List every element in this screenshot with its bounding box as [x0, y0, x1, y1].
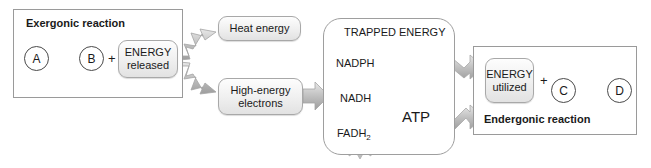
- molecule-b-label: B: [87, 52, 95, 66]
- endergonic-reaction-title: Endergonic reaction: [484, 113, 590, 125]
- trapped-energy-title: TRAPPED ENERGY: [344, 26, 445, 38]
- heat-energy-box: Heat energy: [218, 16, 301, 41]
- energy-released-line1: ENERGY: [125, 46, 171, 59]
- exergonic-plus-sign: +: [108, 51, 116, 66]
- endergonic-plus-sign: +: [540, 73, 548, 88]
- trapped-energy-panel: [323, 18, 455, 155]
- molecule-a-circle: A: [24, 46, 49, 71]
- energy-utilized-box: ENERGY utilized: [485, 58, 534, 103]
- high-energy-electrons-line2: electrons: [238, 97, 283, 110]
- heat-energy-label: Heat energy: [230, 22, 290, 35]
- molecule-c-label: C: [559, 84, 568, 98]
- zigzag-arrow-to-heat-energy: [179, 29, 216, 60]
- energy-utilized-line2: utilized: [492, 81, 526, 94]
- molecule-c-circle: C: [551, 78, 576, 103]
- high-energy-electrons-line1: High-energy: [231, 84, 291, 97]
- molecule-d-circle: D: [607, 78, 632, 103]
- exergonic-reaction-title: Exergonic reaction: [26, 17, 125, 29]
- energy-released-line2: released: [127, 59, 169, 72]
- zigzag-arrow-to-high-energy-electrons: [179, 62, 216, 94]
- molecule-a-label: A: [32, 52, 40, 66]
- high-energy-electrons-box: High-energy electrons: [218, 78, 303, 115]
- molecule-b-circle: B: [79, 46, 104, 71]
- energy-coupling-diagram: Exergonic reaction A B + ENERGY released…: [0, 0, 651, 168]
- energy-utilized-line1: ENERGY: [486, 68, 532, 81]
- molecule-d-label: D: [615, 84, 624, 98]
- energy-released-box: ENERGY released: [118, 40, 178, 78]
